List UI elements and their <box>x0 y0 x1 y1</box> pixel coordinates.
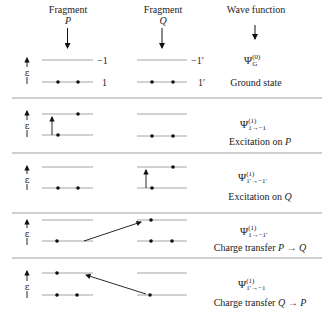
wavefunction-excitation-q: Ψ(1)1′→−1′ <box>238 171 267 185</box>
description-symbol: Q → P <box>278 297 306 308</box>
description-charge-transfer-qp: Charge transfer Q → P <box>210 297 310 308</box>
psi-subscript: 1→−1 <box>248 125 266 132</box>
wavefunction-excitation-p: Ψ(1)1→−1 <box>240 118 266 132</box>
description-symbol: P → Q <box>278 242 306 253</box>
electrons <box>55 80 175 297</box>
psi-symbol: Ψ <box>240 118 248 130</box>
psi-subscript: 1′→−1′ <box>246 178 267 185</box>
svg-text:ε: ε <box>25 282 30 292</box>
row-separators <box>12 98 322 258</box>
wavefunction-charge-transfer-pq: Ψ(1)1→−1′ <box>240 225 268 239</box>
svg-text:ε: ε <box>25 175 30 185</box>
svg-text:ε: ε <box>25 68 30 78</box>
description-symbol: Q <box>284 191 291 202</box>
description-symbol: P <box>285 136 291 147</box>
description-ground-state: Ground state <box>218 77 294 88</box>
description-charge-transfer-pq: Charge transfer P → Q <box>210 242 310 253</box>
psi-subscript: G <box>252 61 260 68</box>
psi-subscript: 1→−1′ <box>248 232 267 239</box>
level-label-q-upper: −1′ <box>191 55 209 66</box>
orbital-diagram: ε ε ε ε ε <box>0 0 332 316</box>
psi-symbol: Ψ <box>244 54 252 66</box>
psi-symbol: Ψ <box>238 278 246 290</box>
svg-text:ε: ε <box>25 121 30 131</box>
wavefunction-ground: Ψ(0)G <box>244 54 260 68</box>
orbital-levels <box>42 60 187 295</box>
header-arrows <box>68 25 256 48</box>
psi-symbol: Ψ <box>240 225 248 237</box>
description-excitation-p: Excitation on P <box>220 136 300 147</box>
svg-text:ε: ε <box>25 229 30 239</box>
description-prefix: Excitation on <box>228 191 284 202</box>
description-prefix: Excitation on <box>229 136 285 147</box>
wavefunction-charge-transfer-qp: Ψ(1)1′→−1 <box>238 278 266 292</box>
description-prefix: Charge transfer <box>214 242 278 253</box>
description-excitation-q: Excitation on Q <box>220 191 300 202</box>
description-prefix: Charge transfer <box>214 297 278 308</box>
level-label-p-upper: −1 <box>97 55 111 66</box>
level-label-q-lower: 1′ <box>198 77 210 88</box>
transition-arrows <box>52 117 146 294</box>
level-label-p-lower: 1 <box>102 77 112 88</box>
psi-symbol: Ψ <box>238 171 246 183</box>
psi-subscript: 1′→−1 <box>246 285 265 292</box>
